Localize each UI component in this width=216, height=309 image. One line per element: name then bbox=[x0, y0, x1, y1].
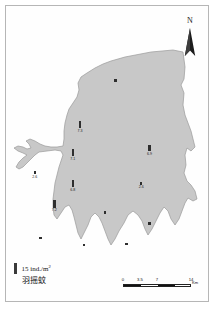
north-arrow-label: N bbox=[178, 16, 202, 25]
legend-value-label: 15 ind./m2 bbox=[22, 262, 51, 274]
station-value-label: 2.6 bbox=[25, 175, 45, 179]
scale-bar: 03.5714 Km bbox=[123, 277, 195, 287]
legend-taxon-label: 羽摇蚊 bbox=[22, 276, 104, 286]
station-dot-symbol bbox=[114, 79, 116, 81]
station-dot-symbol bbox=[125, 243, 127, 245]
scale-bar-segment bbox=[124, 285, 141, 286]
station-marker: 6.8 bbox=[63, 180, 83, 191]
scale-bar-tick: 0 bbox=[122, 277, 124, 282]
scale-bar-unit-label: Km bbox=[192, 280, 198, 285]
station-dot-symbol bbox=[83, 244, 85, 246]
north-arrow: N bbox=[178, 16, 202, 60]
station-marker bbox=[106, 79, 126, 81]
north-arrow-icon bbox=[178, 26, 202, 58]
station-bar-symbol bbox=[72, 149, 74, 156]
station-value-label: 7.2 bbox=[44, 208, 64, 212]
map-page: 7.37.16.96.82.62.67.2 N 15 ind./m2 羽摇蚊 0… bbox=[0, 0, 216, 309]
station-value-label: 2.6 bbox=[131, 185, 151, 189]
station-marker: 7.2 bbox=[44, 200, 64, 212]
legend-value-superscript: 2 bbox=[48, 264, 50, 269]
legend-bar-symbol-icon bbox=[14, 263, 17, 274]
station-value-label: 7.3 bbox=[70, 129, 90, 133]
station-dot-symbol bbox=[104, 211, 106, 213]
station-marker bbox=[95, 211, 115, 213]
station-value-label: 7.1 bbox=[63, 157, 83, 161]
station-marker: 7.1 bbox=[63, 149, 83, 161]
station-marker bbox=[117, 243, 137, 245]
station-marker bbox=[74, 244, 94, 246]
scale-bar-track bbox=[123, 284, 191, 287]
station-bar-symbol bbox=[148, 145, 150, 152]
scale-bar-tick-labels: 03.5714 bbox=[123, 277, 195, 284]
scale-bar-tick: 7 bbox=[156, 277, 158, 282]
station-bar-symbol bbox=[72, 180, 74, 187]
station-marker bbox=[139, 222, 159, 224]
scale-bar-segment bbox=[158, 285, 175, 286]
scale-bar-tick: 3.5 bbox=[137, 277, 143, 282]
legend: 15 ind./m2 羽摇蚊 bbox=[14, 262, 104, 286]
station-dot-symbol bbox=[148, 222, 150, 224]
station-bar-symbol bbox=[53, 200, 55, 207]
station-marker: 2.6 bbox=[25, 171, 45, 179]
station-marker: 7.3 bbox=[70, 121, 90, 133]
station-value-label: 6.8 bbox=[63, 188, 83, 192]
station-marker bbox=[30, 237, 50, 239]
station-value-label: 6.9 bbox=[139, 152, 159, 156]
station-marker: 6.9 bbox=[139, 145, 159, 156]
station-bar-symbol bbox=[79, 121, 81, 128]
legend-row: 15 ind./m2 bbox=[14, 262, 104, 274]
station-dot-symbol bbox=[39, 237, 41, 239]
legend-value-text: 15 ind./m bbox=[22, 265, 49, 273]
station-marker: 2.6 bbox=[131, 182, 151, 190]
